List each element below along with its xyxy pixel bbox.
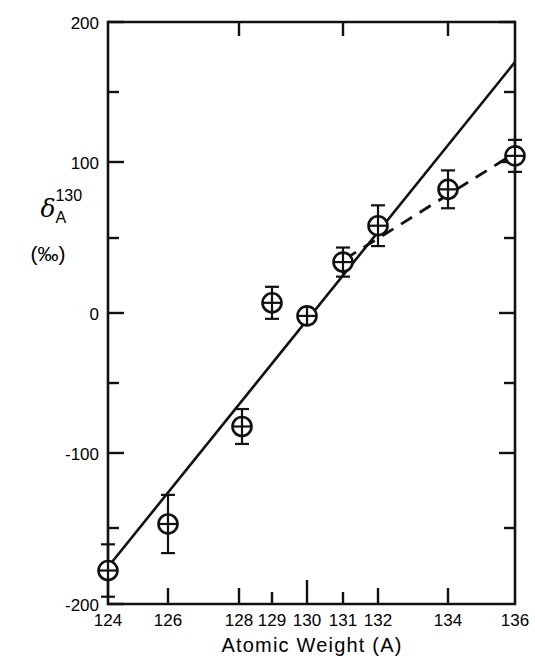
data-point: [263, 287, 282, 319]
y-tick-label: 0: [90, 305, 99, 324]
data-point: [506, 140, 525, 172]
y-tick-label: -100: [65, 445, 99, 464]
x-tick-label: 130: [293, 611, 321, 630]
x-tick-label: 128: [225, 611, 253, 630]
data-point: [99, 544, 118, 596]
data-points-layer: [99, 140, 525, 597]
y-axis-title: δ 130 A (‰): [2, 196, 94, 264]
x-tick-label: 132: [364, 611, 392, 630]
x-axis-title: Atomic Weight (A): [108, 634, 516, 657]
data-point: [439, 170, 458, 208]
y-tick-label: 100: [71, 154, 99, 173]
y-axis-unit: (‰): [2, 243, 94, 264]
x-axis-top-ticks: [239, 22, 448, 36]
y-axis-major-ticks: [108, 22, 124, 604]
data-point: [233, 409, 252, 444]
x-tick-label: 124: [94, 611, 122, 630]
y-axis-right-ticks: [499, 22, 515, 528]
data-point: [159, 495, 178, 553]
data-point: [334, 248, 353, 277]
y-axis-symbol: δ 130 A: [40, 196, 55, 221]
y-axis-superscript: 130: [55, 188, 82, 204]
y-axis-subscript: A: [55, 210, 66, 226]
y-axis-symbol-delta: δ: [40, 194, 55, 223]
x-tick-label: 131: [329, 611, 357, 630]
plot-canvas: 200 100 0 -100 -200 124 126 128 129 130 …: [0, 0, 535, 670]
x-tick-label: 134: [434, 611, 462, 630]
y-tick-labels: 200 100 0 -100 -200: [65, 14, 99, 615]
x-tick-labels: 124 126 128 129 130 131 132 134 136: [94, 611, 529, 630]
x-tick-label: 129: [258, 611, 286, 630]
data-point: [298, 306, 317, 325]
figure-container: 200 100 0 -100 -200 124 126 128 129 130 …: [0, 0, 535, 670]
x-tick-label: 136: [501, 611, 529, 630]
y-tick-label: 200: [71, 14, 99, 33]
x-axis-ticks: [168, 580, 448, 604]
y-axis-minor-ticks: [108, 92, 119, 528]
x-tick-label: 126: [154, 611, 182, 630]
